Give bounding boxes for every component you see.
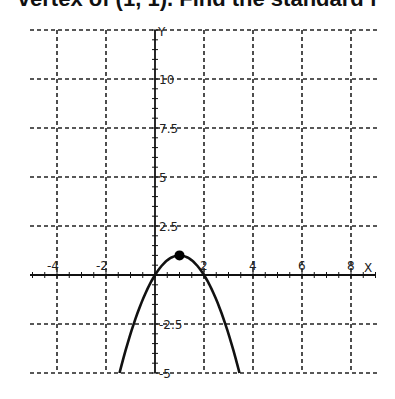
x-tick-label: 6 (298, 259, 306, 273)
y-tick-label: 2.5 (159, 220, 178, 234)
vertex-point (175, 250, 185, 260)
y-tick-label: 10 (159, 73, 174, 87)
parabola-chart: -4-22468107.552.5-2.5-5XY (0, 0, 395, 399)
y-tick-label: 7.5 (159, 122, 178, 136)
y-axis-label: Y (157, 25, 166, 39)
y-tick-label: -5 (159, 367, 171, 381)
x-tick-label: -2 (96, 259, 108, 273)
y-tick-label: 5 (159, 171, 167, 185)
x-tick-label: -4 (47, 259, 59, 273)
y-tick-label: -2.5 (159, 318, 182, 332)
x-tick-label: 4 (249, 259, 257, 273)
x-tick-label: 8 (347, 259, 355, 273)
x-axis-label: X (364, 261, 372, 275)
